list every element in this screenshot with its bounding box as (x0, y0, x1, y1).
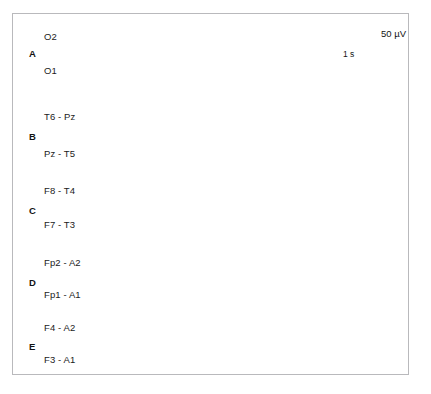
channel-label-o2: O2 (44, 31, 57, 42)
channel-label-f8-t4: F8 - T4 (44, 185, 75, 196)
group-letter-d: D (29, 277, 36, 288)
group-letter-c: C (29, 205, 36, 216)
channel-label-f4-a2: F4 - A2 (44, 322, 75, 333)
channel-label-f7-t3: F7 - T3 (44, 219, 75, 230)
eeg-figure: AO2O1BT6 - PzPz - T5CF8 - T4F7 - T3DFp2 … (0, 0, 431, 394)
group-letter-a: A (29, 48, 36, 59)
time-scale-label: 1 s (343, 49, 354, 59)
channel-label-pz-t5: Pz - T5 (44, 148, 75, 159)
channel-label-t6-pz: T6 - Pz (44, 111, 75, 122)
channel-label-fp1-a1: Fp1 - A1 (44, 289, 81, 300)
channel-label-f3-a1: F3 - A1 (44, 354, 75, 365)
channel-label-fp2-a2: Fp2 - A2 (44, 257, 81, 268)
channel-label-o1: O1 (44, 65, 57, 76)
group-letter-e: E (29, 341, 36, 352)
amplitude-scale-label: 50 µV (381, 28, 406, 39)
group-letter-b: B (29, 131, 36, 142)
